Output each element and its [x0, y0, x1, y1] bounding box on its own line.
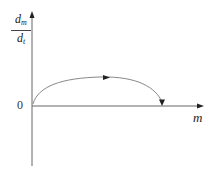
x-axis-label: m: [193, 110, 202, 126]
y-label-denominator-sub: t: [23, 37, 25, 46]
phase-diagram: [0, 0, 212, 170]
trajectory-curve: [33, 77, 162, 104]
origin-label: 0: [17, 98, 23, 113]
y-label-numerator-sub: m: [21, 18, 27, 27]
direction-arrow-down-icon: [159, 100, 165, 107]
direction-arrow-right-icon: [103, 75, 110, 80]
y-axis-label: dm dt: [11, 13, 31, 48]
x-axis-arrow-icon: [197, 104, 204, 109]
